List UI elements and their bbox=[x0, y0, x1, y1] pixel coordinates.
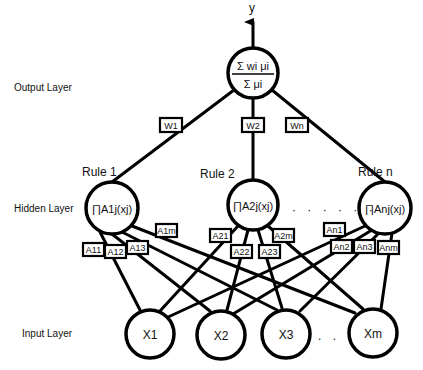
weight-box-wn: Wn bbox=[286, 118, 308, 132]
svg-text:A1m: A1m bbox=[157, 226, 176, 236]
fuzzy-neural-network-diagram: Output Layer Hidden Layer Input Layer y … bbox=[0, 0, 423, 370]
input-layer-label: Input Layer bbox=[22, 328, 73, 339]
svg-text:A23: A23 bbox=[261, 247, 277, 257]
output-y-label: y bbox=[249, 1, 255, 15]
input-ellipsis: . . . bbox=[318, 329, 355, 343]
membership-box-a22: A22 bbox=[231, 245, 252, 258]
input-node-xm: Xm bbox=[349, 309, 397, 357]
svg-text:A2m: A2m bbox=[274, 231, 293, 241]
output-numerator: Σ wi μi bbox=[237, 60, 269, 72]
svg-text:Anm: Anm bbox=[379, 243, 398, 253]
output-denominator: Σ μi bbox=[244, 78, 263, 90]
svg-text:X3: X3 bbox=[279, 328, 294, 342]
membership-box-an3: An3 bbox=[354, 240, 375, 253]
rule-2-label: Rule 2 bbox=[200, 167, 235, 181]
svg-text:∏A1j(xj): ∏A1j(xj) bbox=[92, 203, 132, 216]
membership-box-a11: A11 bbox=[83, 243, 104, 256]
svg-text:A13: A13 bbox=[129, 243, 145, 253]
svg-text:W1: W1 bbox=[164, 121, 178, 131]
svg-text:A22: A22 bbox=[233, 247, 249, 257]
input-node-x2: X2 bbox=[197, 311, 245, 359]
membership-box-an2: An2 bbox=[331, 240, 352, 253]
membership-box-a23: A23 bbox=[259, 245, 280, 258]
membership-box-a2m: A2m bbox=[273, 229, 294, 242]
svg-text:A21: A21 bbox=[212, 231, 228, 241]
svg-text:X1: X1 bbox=[143, 328, 158, 342]
weight-box-w1: W1 bbox=[160, 118, 182, 132]
hidden-layer-label: Hidden Layer bbox=[14, 203, 74, 214]
svg-text:W2: W2 bbox=[246, 121, 260, 131]
rule-1-label: Rule 1 bbox=[82, 165, 117, 179]
hidden-node-rule-2: ∏A2j(xj) bbox=[228, 180, 278, 230]
membership-box-anm: Anm bbox=[378, 241, 399, 254]
svg-text:∏A2j(xj): ∏A2j(xj) bbox=[233, 200, 273, 213]
svg-text:X2: X2 bbox=[214, 329, 229, 343]
svg-text:Xm: Xm bbox=[364, 327, 382, 341]
hidden-ellipsis: · · · · · · bbox=[292, 203, 377, 217]
weight-box-w2: W2 bbox=[242, 118, 264, 132]
membership-box-a21: A21 bbox=[210, 229, 231, 242]
svg-text:An3: An3 bbox=[356, 242, 372, 252]
hidden-node-rule-1: ∏A1j(xj) bbox=[86, 182, 138, 234]
membership-box-a12: A12 bbox=[105, 245, 126, 258]
svg-text:A11: A11 bbox=[86, 245, 101, 255]
membership-box-an1: An1 bbox=[324, 223, 345, 236]
svg-text:A12: A12 bbox=[107, 247, 123, 257]
svg-text:An2: An2 bbox=[333, 242, 349, 252]
output-layer-label: Output Layer bbox=[14, 82, 72, 93]
svg-text:Wn: Wn bbox=[290, 121, 304, 131]
output-node: Σ wi μi Σ μi bbox=[228, 48, 278, 98]
membership-box-a1m: A1m bbox=[156, 224, 177, 237]
membership-box-a13: A13 bbox=[127, 241, 148, 254]
svg-text:An1: An1 bbox=[326, 225, 342, 235]
weight-edges bbox=[112, 90, 385, 182]
rule-n-label: Rule n bbox=[358, 165, 393, 179]
input-node-x1: X1 bbox=[126, 310, 174, 358]
input-node-x3: X3 bbox=[262, 310, 310, 358]
